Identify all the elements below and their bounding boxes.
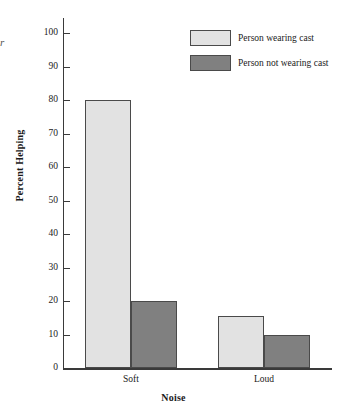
- y-axis-line: [63, 18, 64, 369]
- y-tick: [64, 33, 70, 34]
- y-tick-label: 10: [18, 329, 58, 339]
- bar-loud-series1: [218, 316, 264, 368]
- y-tick-label: 90: [18, 61, 58, 71]
- bar-chart: r Percent Helping 0102030405060708090100…: [0, 0, 347, 409]
- x-category-label-loud: Loud: [209, 374, 319, 384]
- x-category-label-soft: Soft: [76, 374, 186, 384]
- y-tick: [64, 301, 70, 302]
- y-tick: [64, 134, 70, 135]
- y-tick: [64, 201, 70, 202]
- legend-label-2: Person not wearing cast: [238, 58, 329, 68]
- y-tick-label: 0: [18, 362, 58, 372]
- legend-swatch-2: [190, 55, 231, 71]
- x-axis-line: [63, 368, 332, 370]
- y-tick-label: 60: [18, 161, 58, 171]
- legend-swatch-1: [190, 30, 231, 46]
- y-tick: [64, 368, 70, 369]
- y-tick: [64, 234, 70, 235]
- y-tick: [64, 335, 70, 336]
- y-tick-label: 70: [18, 128, 58, 138]
- y-tick: [64, 167, 70, 168]
- bar-loud-series2: [264, 335, 310, 369]
- y-tick-label: 20: [18, 295, 58, 305]
- y-tick: [64, 100, 70, 101]
- stray-glyph: r: [0, 36, 7, 48]
- y-tick: [64, 268, 70, 269]
- y-tick-label: 80: [18, 94, 58, 104]
- y-tick-label: 50: [18, 195, 58, 205]
- legend-label-1: Person wearing cast: [238, 33, 314, 43]
- y-tick-label: 40: [18, 228, 58, 238]
- y-tick-label: 30: [18, 262, 58, 272]
- y-tick: [64, 67, 70, 68]
- x-axis-title: Noise: [0, 392, 347, 403]
- bar-soft-series2: [131, 301, 177, 368]
- y-tick-label: 100: [18, 27, 58, 37]
- bar-soft-series1: [85, 100, 131, 368]
